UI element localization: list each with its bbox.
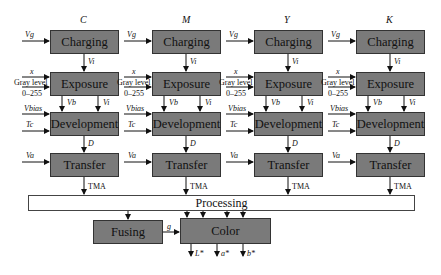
label-vg-k: Vg [331,31,340,39]
label-tc-c: Tc [26,121,33,129]
label-gray-level-c: Gray level [14,79,48,87]
label-va-m: Va [128,152,136,160]
label-tma-m: TMA [190,183,208,191]
exposure-box-c: Exposure [50,72,119,96]
label-vg-m: Vg [127,31,136,39]
transfer-box-k: Transfer [356,153,425,177]
label-gray-range-k: 0–255 [328,90,348,98]
label-vg-c: Vg [25,31,34,39]
development-box-y: Development [254,112,323,136]
label-vi2-k: Vi [409,99,416,107]
label-vi2-m: Vi [205,99,212,107]
label-vbias-c: Vbias [24,105,42,113]
label-d-c: D [88,140,94,148]
column-header-k: K [386,14,393,25]
label-l-star: L* [195,250,203,258]
column-header-c: C [80,14,87,25]
exposure-box-m: Exposure [152,72,221,96]
label-vb-m: Vb [169,99,178,107]
exposure-box-y: Exposure [254,72,323,96]
label-tc-y: Tc [230,121,237,129]
label-va-y: Va [230,152,238,160]
label-d-m: D [190,140,196,148]
label-gray-range-c: 0–255 [22,90,42,98]
label-gray-range-y: 0–255 [226,90,246,98]
label-a-star: a* [221,250,229,258]
development-box-c: Development [50,112,119,136]
transfer-box-c: Transfer [50,153,119,177]
label-gray-level-k: Gray level [321,79,355,87]
label-vi-m: Vi [190,58,197,66]
transfer-box-y: Transfer [254,153,323,177]
label-x-y: x [234,68,238,76]
label-vb-c: Vb [67,99,76,107]
charging-box-k: Charging [356,30,425,54]
label-d-y: D [292,140,298,148]
label-g: g [167,223,171,231]
processing-bar: Processing [28,195,415,211]
column-header-y: Y [284,14,290,25]
label-vi-y: Vi [292,58,299,66]
label-vbias-m: Vbias [126,105,144,113]
fusing-box: Fusing [93,220,163,244]
label-gray-level-y: Gray level [219,79,253,87]
label-tma-y: TMA [292,183,310,191]
development-box-m: Development [152,112,221,136]
charging-box-m: Charging [152,30,221,54]
label-x-m: x [132,68,136,76]
label-d-k: D [394,140,400,148]
label-tma-k: TMA [394,183,412,191]
transfer-box-m: Transfer [152,153,221,177]
label-vi2-y: Vi [307,99,314,107]
label-vi2-c: Vi [103,99,110,107]
label-x-k: x [336,68,340,76]
label-vb-y: Vb [271,99,280,107]
label-vg-y: Vg [229,31,238,39]
label-tma-c: TMA [88,183,106,191]
label-vbias-k: Vbias [330,105,348,113]
development-box-k: Development [356,112,425,136]
label-va-k: Va [332,152,340,160]
label-b-star: b* [247,250,255,258]
label-vbias-y: Vbias [228,105,246,113]
charging-box-y: Charging [254,30,323,54]
column-header-m: M [182,14,190,25]
label-vi-k: Vi [394,58,401,66]
label-vi-c: Vi [88,58,95,66]
label-va-c: Va [26,152,34,160]
label-tc-k: Tc [332,121,339,129]
charging-box-c: Charging [50,30,119,54]
exposure-box-k: Exposure [356,72,425,96]
label-gray-range-m: 0–255 [124,90,144,98]
label-gray-level-m: Gray level [117,79,151,87]
label-tc-m: Tc [128,121,135,129]
label-x-c: x [30,68,34,76]
color-box: Color [180,218,271,244]
label-vb-k: Vb [373,99,382,107]
